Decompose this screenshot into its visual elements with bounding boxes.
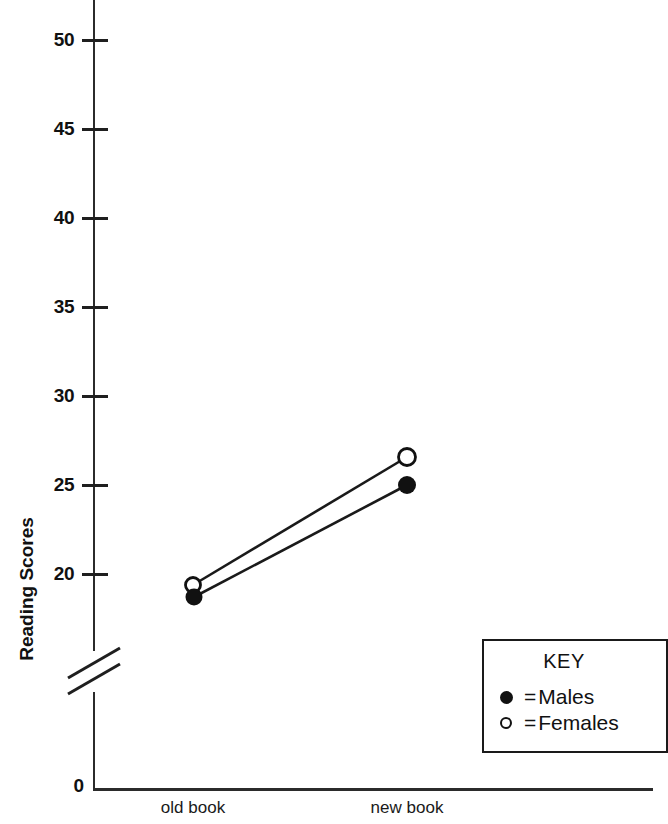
legend-title: KEY — [484, 650, 644, 673]
legend-label-females: Females — [538, 711, 619, 735]
data-point-males-new-book — [398, 476, 416, 494]
data-point-males-old-book — [186, 589, 203, 606]
legend-row-males: = Males — [500, 685, 594, 709]
legend-separator-males: = — [524, 685, 536, 709]
legend-key-box: KEY = Males = Females — [482, 639, 668, 753]
series-line-males — [194, 485, 407, 597]
data-point-females-new-book — [399, 449, 416, 466]
legend-separator-females: = — [524, 711, 536, 735]
series-line-females — [193, 457, 407, 585]
open-circle-icon — [500, 717, 524, 729]
legend-row-females: = Females — [500, 711, 619, 735]
legend-label-males: Males — [538, 685, 594, 709]
filled-circle-icon — [500, 691, 524, 704]
